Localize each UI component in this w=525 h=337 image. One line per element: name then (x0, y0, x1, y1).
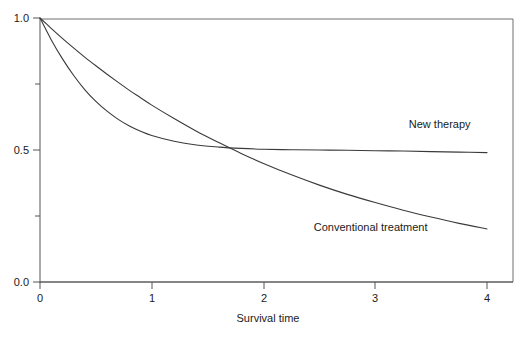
y-tick-label-0.5: 0.5 (14, 144, 29, 156)
x-axis-title: Survival time (237, 312, 300, 324)
new-therapy-label: New therapy (409, 118, 471, 130)
survival-curve-plot: 1.0 0.5 0.0 0 1 2 3 4 Survival time New … (0, 0, 525, 337)
conventional-treatment-label: Conventional treatment (314, 221, 428, 233)
x-axis-ticks (40, 282, 487, 289)
x-tick-label-4: 4 (484, 292, 490, 304)
series-line-new-therapy (40, 18, 487, 153)
plot-frame (40, 19, 513, 282)
y-tick-label-0.0: 0.0 (14, 276, 29, 288)
x-tick-label-1: 1 (149, 292, 155, 304)
chart-figure: 1.0 0.5 0.0 0 1 2 3 4 Survival time New … (0, 0, 525, 337)
y-tick-label-1.0: 1.0 (14, 12, 29, 24)
x-tick-label-3: 3 (372, 292, 378, 304)
x-tick-label-2: 2 (261, 292, 267, 304)
y-axis-ticks (33, 18, 40, 282)
x-tick-label-0: 0 (37, 292, 43, 304)
